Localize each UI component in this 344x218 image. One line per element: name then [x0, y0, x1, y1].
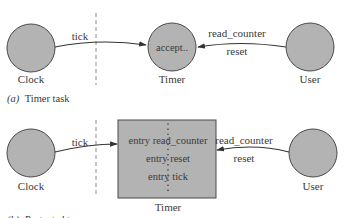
clock-node-b: Clock — [7, 129, 55, 192]
caption-a-prefix: (a) — [7, 93, 20, 105]
timer-label-b: Timer — [155, 201, 182, 213]
read-counter-edge-label: read_counter — [208, 27, 266, 39]
caption-b: (b) Protected type — [7, 214, 86, 218]
user-node-b: User — [289, 129, 337, 192]
user-label: User — [300, 73, 321, 85]
entry-reset: entry reset — [146, 153, 190, 164]
user-label-b: User — [303, 180, 324, 192]
tick-edge — [55, 42, 146, 47]
tick-edge-label: tick — [72, 30, 89, 42]
read-counter-edge-label-b: read_counter — [215, 134, 273, 146]
user-node: User — [286, 23, 334, 85]
caption-b-text: Protected type — [25, 214, 86, 218]
panel-b: Clock tick entry read_counter entry rese… — [7, 120, 337, 218]
entry-read-counter: entry read_counter — [128, 135, 208, 146]
caption-b-prefix: (b) — [7, 214, 20, 218]
reset-edge-label: reset — [227, 45, 248, 57]
reset-edge-label-b: reset — [234, 152, 255, 164]
entry-tick: entry tick — [148, 171, 189, 182]
clock-label-b: Clock — [18, 180, 45, 192]
timer-accept-label: accept.. — [156, 42, 188, 53]
timer-protected-box: entry read_counter entry reset entry tic… — [118, 120, 216, 213]
caption-a-text: Timer task — [25, 93, 71, 104]
clock-label: Clock — [18, 73, 45, 85]
timer-diagram: Clock tick accept.. Timer read_counter r… — [0, 0, 344, 218]
timer-node: accept.. Timer — [148, 23, 196, 85]
timer-label: Timer — [159, 73, 186, 85]
clock-node: Clock — [7, 24, 55, 85]
tick-edge-label-b: tick — [72, 136, 89, 148]
caption-a: (a) Timer task — [7, 93, 70, 105]
panel-a: Clock tick accept.. Timer read_counter r… — [7, 13, 334, 105]
